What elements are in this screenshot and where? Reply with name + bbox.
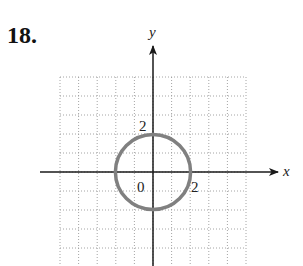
y-axis-label: y [147,24,156,40]
x-axis-label: x [282,163,290,179]
y-tick-label: 2 [139,118,147,134]
origin-label: 0 [137,179,145,195]
x-tick-label: 2 [191,179,199,195]
coordinate-plane: x y 0 2 2 [0,0,303,266]
